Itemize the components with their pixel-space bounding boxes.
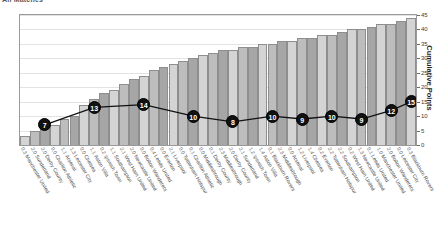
y-axis-tick-label: 0 [421,142,424,148]
data-point-marker: 10 [187,110,200,123]
x-axis-labels: 0.3 Manchester United2.0 Sunderland2.0 D… [19,146,417,232]
line-series: 71314108109109121513 [20,15,416,145]
data-point-marker: 9 [355,113,368,126]
y-axis-tick-mark [417,87,420,88]
y-axis-tick-mark [417,44,420,45]
data-point-marker: 10 [266,110,279,123]
y-axis-tick-mark [417,73,420,74]
line-path [20,15,416,145]
y-axis-tick-mark [417,116,420,117]
y-axis-tick-label: 10 [421,113,428,119]
data-point-marker: 9 [296,113,309,126]
y-axis-tick-mark [417,131,420,132]
y-axis-tick-label: 45 [421,12,428,18]
y-axis-title: Cumulative Points [425,45,434,110]
y-axis-tick-mark [417,102,420,103]
y-axis-tick-mark [417,15,420,16]
y-axis-tick-mark [417,145,420,146]
data-point-marker: 10 [325,110,338,123]
data-point-marker: 15 [405,95,417,108]
y-axis-tick-mark [417,29,420,30]
data-point-marker: 12 [385,104,398,117]
chart-container: All Matches 71314108109109121513 0510152… [0,0,443,232]
y-axis-tick-label: 40 [421,26,428,32]
page-title: All Matches [2,0,43,4]
y-axis-tick-label: 5 [421,128,424,134]
y-axis-tick-mark [417,58,420,59]
data-point-marker: 13 [88,101,101,114]
plot-area: 71314108109109121513 [19,14,417,146]
